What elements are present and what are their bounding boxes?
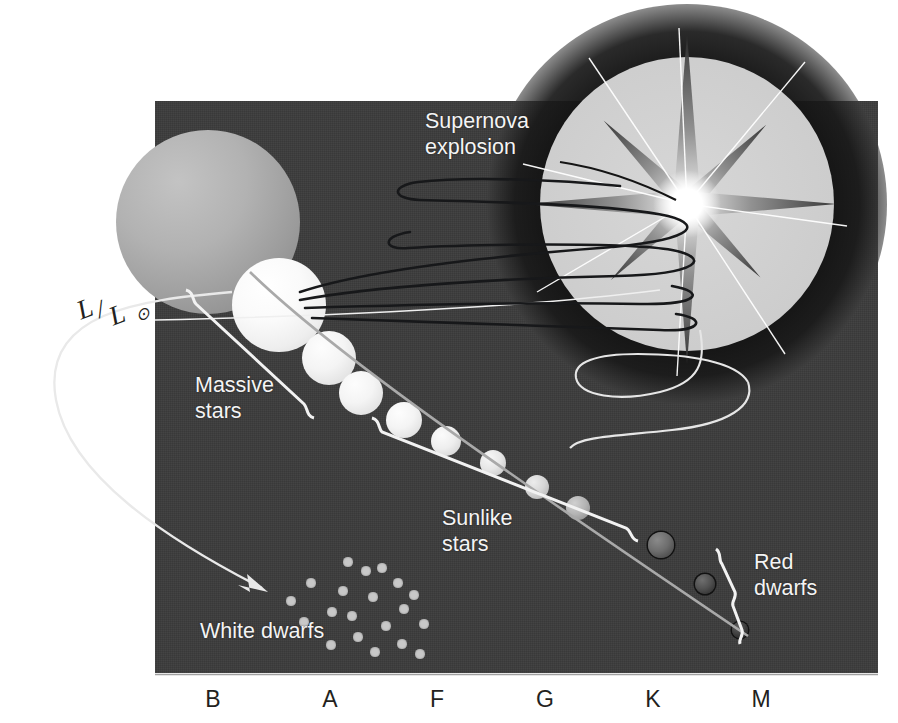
x-axis-tick-g: G [525,686,565,713]
x-axis-tick-b: B [193,686,233,713]
annotation-massive-stars: Massive stars [195,372,274,424]
x-axis-tick-k: K [633,686,673,713]
annotation-supernova-explosion: Supernova explosion [425,108,529,160]
annotation-sunlike-stars: Sunlike stars [442,505,513,557]
sun-symbol-icon: ⊙ [132,302,153,327]
post-supernova-white-loops [570,330,749,448]
main-sequence-spine [250,272,748,636]
x-axis-tick-f: F [417,686,457,713]
y-axis-label-denominator: L [105,298,130,332]
annotation-white-dwarfs: White dwarfs [200,618,324,644]
annotation-red-dwarfs: Red dwarfs [754,549,817,601]
x-axis-tick-m: M [741,686,781,713]
figure-canvas: L / L ⊙ Supernova explosion Massive star… [0,0,898,723]
supernova-track-black-lines [300,179,696,330]
supernova-label-leader-line [560,162,676,200]
x-axis-tick-a: A [310,686,350,713]
